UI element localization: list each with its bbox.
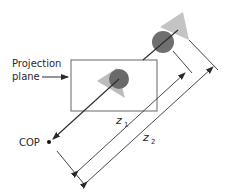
extension-line-triangle [189, 40, 218, 70]
z1-label: z [115, 114, 122, 127]
perspective-projection-diagram: Projection plane COP z 1 z 2 [0, 0, 229, 195]
cop-label: COP [19, 137, 40, 148]
cop-point [47, 140, 51, 144]
z1-subscript: 1 [124, 121, 128, 129]
projection-plane-label-line1: Projection [12, 58, 61, 69]
extension-line-sphere [173, 51, 192, 73]
diagram-canvas: Projection plane COP z 1 z 2 [0, 0, 229, 195]
projection-plane-label-line2: plane [12, 71, 40, 82]
z2-label: z [142, 131, 149, 144]
extension-line-cop [57, 151, 84, 184]
z2-subscript: 2 [151, 138, 155, 146]
